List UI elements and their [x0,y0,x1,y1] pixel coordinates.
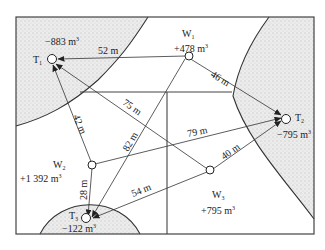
svg-text:−795 m3: −795 m3 [277,129,311,140]
earthwork-transport-diagram: 52 m 46 m 82 m 75 m 42 m 79 m 28 m 40 m … [0,0,325,250]
svg-text:−122 m3: −122 m3 [62,223,96,234]
svg-text:W1: W1 [182,28,194,40]
edge-label-w3-t1: 75 m [121,97,144,118]
svg-text:−883 m3: −883 m3 [45,36,79,47]
svg-text:W3: W3 [212,189,224,201]
label-w2: W2 +1 392 m3 [20,159,65,184]
edge-label-w2-t1: 42 m [71,113,89,136]
node-t3 [82,214,91,223]
node-w3 [206,166,214,174]
edge-label-w3-t2: 40 m [219,141,242,162]
edge-w3-t3 [93,172,207,218]
label-w3: W3 +795 m3 [201,189,235,216]
svg-text:+795 m3: +795 m3 [201,205,235,216]
svg-text:+478 m3: +478 m3 [174,43,208,54]
edge-label-w1-t3: 82 m [120,130,140,153]
node-w2 [88,161,96,169]
label-w1: W1 +478 m3 [174,28,208,54]
edge-label-w1-t1: 52 m [98,45,119,56]
edge-label-w1-t2: 46 m [209,68,232,88]
node-t2 [282,115,291,124]
svg-text:W2: W2 [53,159,65,171]
svg-text:+1 392 m3: +1 392 m3 [20,173,61,184]
edge-label-w2-t3: 28 m [78,180,89,201]
edge-label-w3-t3: 54 m [130,181,153,199]
node-t1 [48,55,57,64]
